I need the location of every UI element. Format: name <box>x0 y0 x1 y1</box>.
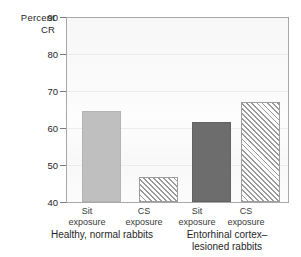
group-label-healthy: Healthy, normal rabbits <box>30 229 174 241</box>
bar-chart-figure: Percent CR 90 80 70 60 50 40 Sit exposur… <box>0 0 301 257</box>
x-label-healthy-sit-line1: Sit <box>55 206 119 217</box>
group-label-lesioned-line2: lesioned rabbits <box>160 241 294 253</box>
group-label-lesioned: Entorhinal cortex– lesioned rabbits <box>160 229 294 252</box>
bar-lesioned-cs-exposure <box>241 102 280 202</box>
y-tick-label-80: 80 <box>34 50 58 60</box>
x-label-healthy-sit-line2: exposure <box>55 217 119 228</box>
y-tick-label-50: 50 <box>34 161 58 171</box>
gridline-70 <box>67 91 288 92</box>
y-tick-label-60: 60 <box>34 124 58 134</box>
bar-healthy-sit-exposure <box>82 111 121 202</box>
y-tick-label-90: 90 <box>34 13 58 23</box>
group-label-lesioned-line1: Entorhinal cortex– <box>160 229 294 241</box>
x-label-lesioned-cs-line1: CS <box>214 206 278 217</box>
y-axis-title-line2: CR <box>2 24 55 36</box>
group-label-healthy-line1: Healthy, normal rabbits <box>30 229 174 241</box>
x-label-healthy-sit: Sit exposure <box>55 206 119 227</box>
bar-healthy-cs-exposure <box>139 177 178 202</box>
y-tick-label-70: 70 <box>34 87 58 97</box>
bar-lesioned-sit-exposure <box>192 122 231 202</box>
x-label-lesioned-cs-line2: exposure <box>214 217 278 228</box>
gridline-80 <box>67 54 288 55</box>
plot-area <box>66 17 289 203</box>
x-label-lesioned-cs: CS exposure <box>214 206 278 227</box>
